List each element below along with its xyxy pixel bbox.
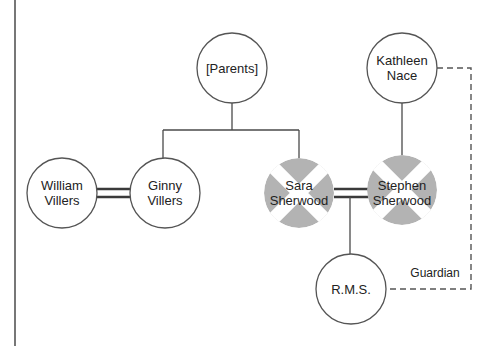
genogram-diagram: Guardian [Parents] Kathleen Nace William…: [0, 0, 498, 346]
node-rms: R.M.S.: [316, 254, 386, 324]
node-stephen-first: Stephen: [378, 178, 426, 193]
node-william-first: William: [41, 178, 83, 193]
node-sara-sherwood: Sara Sherwood: [264, 158, 334, 228]
node-william-last: Villers: [44, 193, 80, 208]
node-ginny-first: Ginny: [148, 178, 182, 193]
node-ginny-villers: Ginny Villers: [130, 158, 200, 228]
marriage-line-sherwood: [334, 189, 368, 197]
node-sara-last: Sherwood: [270, 193, 329, 208]
node-kathleen-nace: Kathleen Nace: [367, 33, 437, 103]
guardian-label: Guardian: [410, 266, 459, 280]
node-sara-first: Sara: [285, 178, 313, 193]
node-stephen-sherwood: Stephen Sherwood: [367, 155, 437, 225]
node-stephen-last: Sherwood: [373, 193, 432, 208]
node-kathleen-last: Nace: [387, 68, 417, 83]
node-parents-label: [Parents]: [206, 61, 258, 76]
node-william-villers: William Villers: [27, 158, 97, 228]
node-parents: [Parents]: [197, 33, 267, 103]
node-kathleen-first: Kathleen: [376, 53, 427, 68]
node-ginny-last: Villers: [147, 193, 183, 208]
parents-sibling-connector: [163, 103, 299, 158]
marriage-line-villers: [97, 189, 130, 197]
node-rms-label: R.M.S.: [331, 282, 371, 297]
